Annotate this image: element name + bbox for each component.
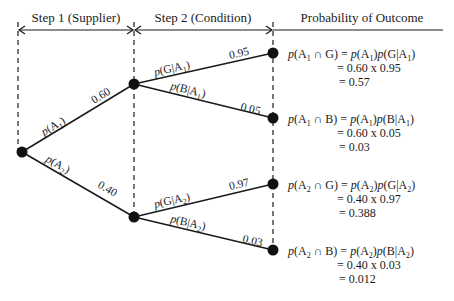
svg-text:p(G|A2): p(G|A2) (152, 190, 192, 213)
node-a2-b (268, 245, 279, 256)
outcome-a1-g: p(A1 ∩ G) = p(A1)p(G|A1) = 0.60 x 0.95 =… (287, 47, 415, 89)
svg-text:= 0.388: = 0.388 (339, 206, 376, 220)
outcome-a2-g: p(A2 ∩ G) = p(A2)p(G|A2) = 0.40 x 0.97 =… (287, 178, 415, 220)
svg-text:p(A1): p(A1) (38, 114, 69, 141)
svg-text:p(B|A2): p(B|A2) (168, 212, 207, 235)
svg-text:= 0.60 x 0.95: = 0.60 x 0.95 (337, 61, 401, 75)
branch-lines (22, 53, 273, 250)
branch-a2 (22, 152, 134, 217)
svg-text:= 0.60 x 0.05: = 0.60 x 0.05 (337, 126, 401, 140)
outcome-a2-b: p(A2 ∩ B) = p(A2)p(B|A2) = 0.40 x 0.03 =… (287, 244, 414, 286)
svg-text:p(B|A1): p(B|A1) (168, 79, 207, 102)
node-a1-b (268, 113, 279, 124)
svg-text:= 0.57: = 0.57 (339, 75, 370, 89)
label-g-given-a2: p(G|A2) (152, 190, 192, 213)
header-arrows (19, 26, 443, 34)
node-a1 (129, 79, 140, 90)
label-b-given-a2: p(B|A2) (168, 212, 207, 235)
probability-tree-diagram: Step 1 (Supplier) Step 2 (Condition) Pro… (0, 0, 454, 301)
node-a2 (129, 212, 140, 223)
value-a1: 0.60 (89, 85, 113, 106)
value-a2: 0.40 (96, 178, 120, 199)
branch-a1 (22, 84, 134, 152)
svg-text:= 0.40 x 0.03: = 0.40 x 0.03 (337, 258, 401, 272)
header-step1: Step 1 (Supplier) (32, 10, 121, 25)
outcome-a1-b: p(A1 ∩ B) = p(A1)p(B|A1) = 0.60 x 0.05 =… (287, 112, 414, 154)
svg-text:= 0.03: = 0.03 (339, 140, 370, 154)
nodes (17, 48, 279, 256)
node-root (17, 147, 28, 158)
value-b-given-a1: 0.05 (240, 100, 263, 117)
label-g-given-a1: p(G|A1) (152, 58, 192, 81)
header-step2: Step 2 (Condition) (155, 10, 252, 25)
label-b-given-a1: p(B|A1) (168, 79, 207, 102)
label-a2: p(A2) (42, 152, 73, 178)
svg-text:= 0.40 x 0.97: = 0.40 x 0.97 (337, 192, 401, 206)
node-a2-g (268, 179, 279, 190)
node-a1-g (268, 48, 279, 59)
svg-text:= 0.012: = 0.012 (339, 272, 376, 286)
svg-text:p(G|A1): p(G|A1) (152, 58, 192, 81)
svg-text:p(A2): p(A2) (42, 152, 73, 178)
value-b-given-a2: 0.03 (242, 232, 265, 248)
label-a1: p(A1) (38, 114, 69, 141)
header-outcome: Probability of Outcome (301, 10, 424, 25)
